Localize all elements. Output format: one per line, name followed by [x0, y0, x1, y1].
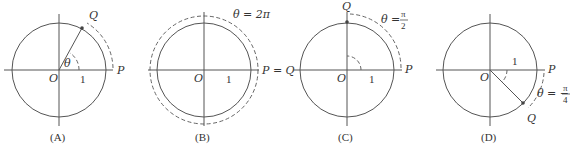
label-theta-prefix: θ = — [381, 13, 400, 26]
point-q — [80, 26, 84, 30]
label-unit: 1 — [226, 73, 232, 85]
label-o: O — [337, 72, 346, 85]
label-o: O — [49, 72, 58, 85]
caption-b: (B) — [195, 131, 210, 144]
angle-arc-inner — [70, 53, 79, 70]
point-q — [345, 20, 349, 24]
label-unit: 1 — [369, 73, 375, 85]
label-frac-den: 2 — [401, 21, 406, 31]
radius-oq — [490, 70, 523, 103]
label-unit: 1 — [512, 55, 518, 67]
label-frac-den: 4 — [563, 95, 568, 105]
label-q: Q — [89, 9, 98, 22]
angle-arc-inner — [347, 56, 361, 70]
panel-c: Q P O 1 θ = π 2 (C) — [293, 0, 413, 144]
label-p: P — [116, 64, 125, 77]
panel-d: P O 1 Q θ = − π 4 (D) — [436, 14, 570, 144]
label-q: Q — [342, 0, 351, 13]
caption-d: (D) — [481, 131, 497, 144]
label-o: O — [194, 72, 203, 85]
label-unit: 1 — [80, 73, 86, 85]
angle-arc-outer — [87, 23, 113, 68]
caption-a: (A) — [50, 131, 66, 144]
label-p: P — [404, 63, 413, 76]
label-theta: θ — [64, 57, 71, 70]
angle-arc-inner — [502, 70, 507, 82]
caption-c: (C) — [338, 131, 353, 144]
point-q — [521, 101, 525, 105]
unit-circle-figure: Q P O 1 θ (A) θ = 2π P = Q O 1 (B) Q P O… — [0, 0, 573, 147]
label-frac-num: π — [401, 9, 406, 19]
panel-b: θ = 2π P = Q O 1 (B) — [148, 8, 295, 144]
panel-a: Q P O 1 θ (A) — [4, 9, 125, 144]
label-p: P — [547, 63, 556, 76]
label-o: O — [480, 71, 489, 84]
label-theta-2pi: θ = 2π — [233, 8, 271, 21]
label-p-equals-q: P = Q — [261, 64, 295, 77]
label-q: Q — [527, 112, 536, 125]
label-frac-num: π — [563, 83, 568, 93]
